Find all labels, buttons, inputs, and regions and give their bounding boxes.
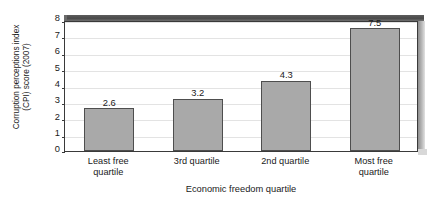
y-axis-tick-label: 3 xyxy=(55,96,60,105)
x-axis-category-label-line: 2nd quartile xyxy=(240,156,330,167)
y-axis-tick-label: 4 xyxy=(55,80,60,89)
y-axis-tick-labels: 012345678 xyxy=(46,19,60,151)
bar xyxy=(84,108,134,151)
y-axis-title-line-2: (CPI) score (2007) xyxy=(21,1,31,153)
chart-wall-right-foot xyxy=(418,149,427,155)
bar-value-label: 2.6 xyxy=(79,98,139,107)
chart-wall-right xyxy=(418,21,425,152)
plot-area: 2.63.24.37.5 xyxy=(64,21,418,152)
x-axis-title: Economic freedom quartile xyxy=(64,184,418,195)
y-axis-title-line-1: Corruption perceptions index xyxy=(11,1,21,153)
x-axis-category-label-line: quartile xyxy=(63,167,153,178)
y-axis-tick-label: 5 xyxy=(55,64,60,73)
y-axis-tick-label: 7 xyxy=(55,31,60,40)
y-axis-tickmark xyxy=(62,152,65,153)
x-axis-category-label: Least freequartile xyxy=(63,156,153,179)
x-axis-category-label: 2nd quartile xyxy=(240,156,330,167)
y-axis-tick-label: 6 xyxy=(55,47,60,56)
y-axis-tick-label: 2 xyxy=(55,113,60,122)
bar xyxy=(173,99,223,151)
y-axis-tick-label: 1 xyxy=(55,129,60,138)
bar-value-label: 3.2 xyxy=(168,88,228,97)
x-axis-category-label: Most freequartile xyxy=(329,156,419,179)
y-axis-title: Corruption perceptions index (CPI) score… xyxy=(11,1,39,153)
bar-chart: Corruption perceptions index (CPI) score… xyxy=(0,0,437,204)
bar-value-label: 4.3 xyxy=(256,70,316,79)
bar-series: 2.63.24.37.5 xyxy=(65,22,417,151)
x-axis-category-label-line: Most free xyxy=(329,156,419,167)
x-axis-category-labels: Least freequartile3rd quartile2nd quarti… xyxy=(64,156,418,181)
bar xyxy=(261,81,311,151)
x-axis-category-label-line: 3rd quartile xyxy=(152,156,242,167)
y-axis-tick-label: 8 xyxy=(55,14,60,23)
bar xyxy=(350,28,400,151)
x-axis-category-label: 3rd quartile xyxy=(152,156,242,167)
x-axis-category-label-line: quartile xyxy=(329,167,419,178)
bar-value-label: 7.5 xyxy=(345,18,405,27)
y-axis-tick-label: 0 xyxy=(55,145,60,154)
x-axis-category-label-line: Least free xyxy=(63,156,153,167)
